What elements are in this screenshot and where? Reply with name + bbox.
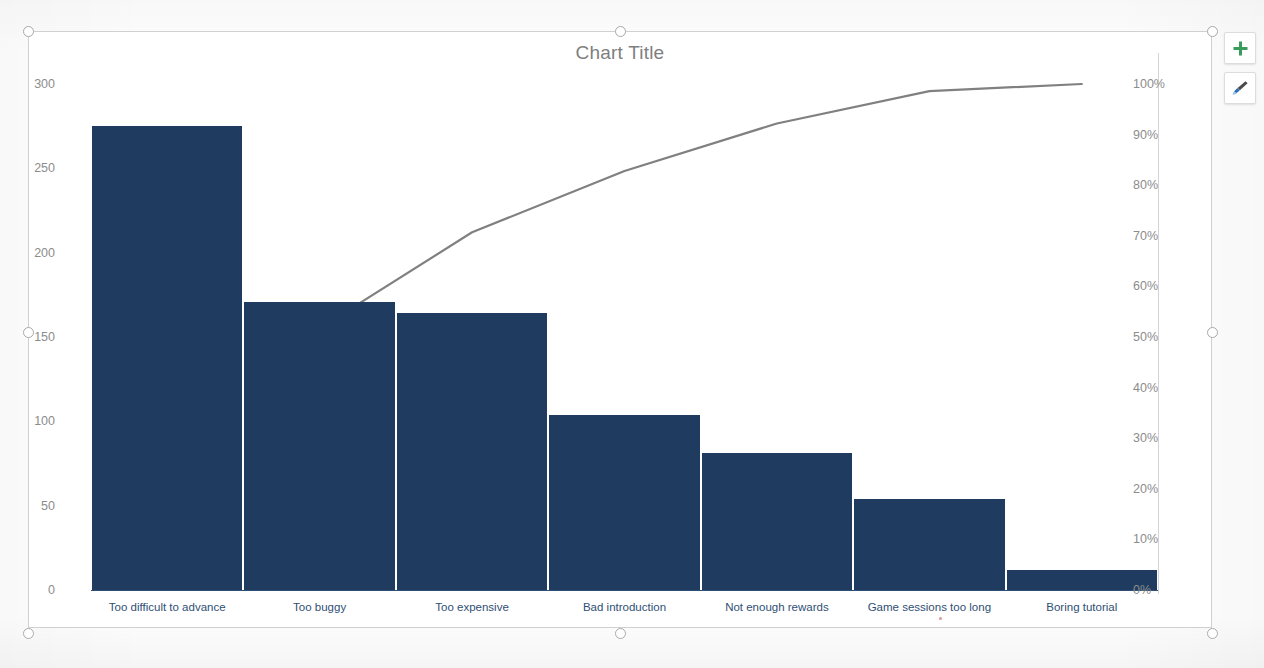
category-label-3: Too expensive: [396, 602, 548, 614]
chart-floating-toolbar[interactable]: [1224, 32, 1258, 104]
bar-6[interactable]: [853, 499, 1005, 590]
chart-object-frame[interactable]: Chart Title 050100150200250300 0%10%20%3…: [28, 31, 1212, 628]
selection-handle-top-center[interactable]: [615, 26, 626, 37]
plus-icon: [1232, 40, 1249, 57]
secondary-axis-tick-label: 40%: [1133, 382, 1158, 395]
secondary-axis-tick-label: 60%: [1133, 280, 1158, 293]
category-label-2: Too buggy: [243, 602, 395, 614]
bar-5[interactable]: [701, 453, 853, 590]
selection-handle-bottom-right[interactable]: [1207, 628, 1218, 639]
secondary-axis-tick-label: 70%: [1133, 230, 1158, 243]
chart-plot-area[interactable]: Chart Title 050100150200250300 0%10%20%3…: [29, 32, 1211, 627]
secondary-axis-tick-label: 10%: [1133, 533, 1158, 546]
category-label-5: Not enough rewards: [701, 602, 853, 614]
selection-handle-middle-left[interactable]: [23, 327, 34, 338]
category-label-1: Too difficult to advance: [91, 602, 243, 614]
paintbrush-icon: [1231, 79, 1250, 98]
bar-1[interactable]: [91, 126, 243, 590]
secondary-axis-tick-label: 80%: [1133, 179, 1158, 192]
secondary-axis-tick-label: 90%: [1133, 129, 1158, 142]
selection-handle-top-left[interactable]: [23, 26, 34, 37]
primary-axis-tick-label: 300: [34, 78, 55, 91]
secondary-axis-tick-label: 50%: [1133, 331, 1158, 344]
primary-axis-tick-label: 250: [34, 162, 55, 175]
secondary-axis-tick-label: 100%: [1133, 78, 1165, 91]
primary-axis-tick-label: 200: [34, 247, 55, 260]
primary-axis-tick-label: 100: [34, 415, 55, 428]
selection-handle-middle-right[interactable]: [1207, 327, 1218, 338]
category-axis-line: [91, 590, 1158, 591]
category-label-4: Bad introduction: [548, 602, 700, 614]
category-label-6: Game sessions too long: [853, 602, 1005, 614]
bar-3[interactable]: [396, 313, 548, 590]
primary-axis-tick-label: 150: [34, 331, 55, 344]
selection-handle-top-right[interactable]: [1207, 26, 1218, 37]
primary-axis-tick-label: 0: [48, 584, 55, 597]
selection-handle-bottom-center[interactable]: [615, 628, 626, 639]
selection-handle-bottom-left[interactable]: [23, 628, 34, 639]
bar-4[interactable]: [548, 415, 700, 590]
bar-2[interactable]: [243, 302, 395, 590]
category-label-7: Boring tutorial: [1006, 602, 1158, 614]
secondary-axis-tick-label: 20%: [1133, 483, 1158, 496]
scan-artifact-speck: [939, 617, 942, 620]
primary-axis-tick-label: 50: [41, 500, 55, 513]
chart-elements-button[interactable]: [1224, 32, 1256, 64]
secondary-axis-tick-label: 30%: [1133, 432, 1158, 445]
chart-styles-button[interactable]: [1224, 72, 1256, 104]
secondary-axis-tick-label: 0%: [1133, 584, 1151, 597]
